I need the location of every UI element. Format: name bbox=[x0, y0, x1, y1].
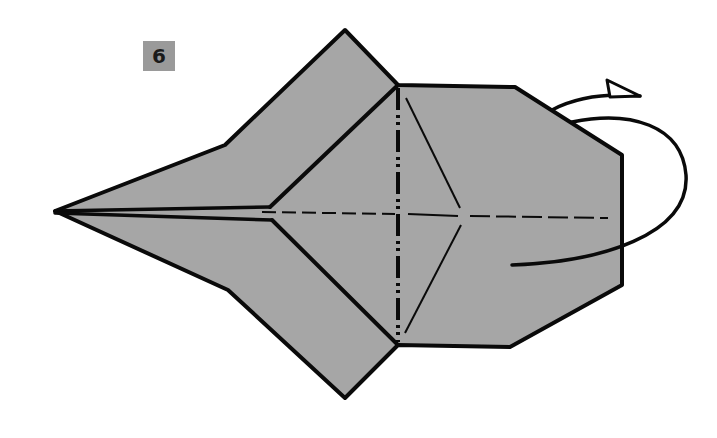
origami-diagram bbox=[0, 0, 717, 438]
